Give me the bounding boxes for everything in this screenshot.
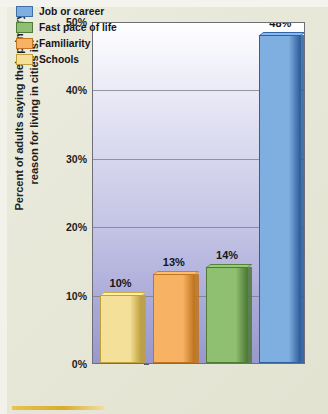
bar-side-face xyxy=(301,35,305,363)
legend-swatch-icon xyxy=(16,6,33,17)
bar-fast-pace-of-life[interactable] xyxy=(206,267,248,363)
bar-familiarity[interactable] xyxy=(153,274,195,363)
legend-item-schools[interactable]: Schools xyxy=(16,52,117,67)
y-axis-tick-label: 30% xyxy=(66,153,87,165)
decorative-rule xyxy=(12,406,105,410)
y-axis-tick-labels: 0%10%20%30%40%50% xyxy=(55,22,89,364)
legend-item-label: Familiarity xyxy=(39,38,91,49)
figure-container: Percent of adults saying their primary r… xyxy=(0,0,328,414)
bar-side-face xyxy=(142,295,146,363)
bar-side-face xyxy=(248,267,252,363)
bar-front-face xyxy=(100,295,142,363)
bar-front-face xyxy=(153,274,195,363)
bar-value-label: 14% xyxy=(202,249,252,261)
legend-swatch-icon xyxy=(16,22,33,33)
legend-item-label: Fast pace of life xyxy=(39,22,117,33)
legend-swatch-icon xyxy=(16,54,33,65)
legend-item-label: Schools xyxy=(39,54,79,65)
y-axis-tick-mark xyxy=(144,364,149,365)
y-axis-tick-label: 10% xyxy=(66,290,87,302)
legend-item-job-or-career[interactable]: Job or career xyxy=(16,4,117,19)
bar-value-label: 10% xyxy=(96,277,146,289)
bar-side-face xyxy=(195,274,199,363)
bar-front-face xyxy=(259,35,301,363)
y-axis-tick-label: 40% xyxy=(66,84,87,96)
chart-legend: Job or careerFast pace of lifeFamiliarit… xyxy=(16,4,117,67)
y-axis-tick-label: 0% xyxy=(72,358,87,370)
legend-item-label: Job or career xyxy=(39,6,104,17)
bar-job-or-career[interactable] xyxy=(259,35,301,363)
bar-value-label: 48% xyxy=(255,22,305,29)
y-axis-tick-label: 20% xyxy=(66,221,87,233)
legend-item-familiarity[interactable]: Familiarity xyxy=(16,36,117,51)
legend-item-fast-pace-of-life[interactable]: Fast pace of life xyxy=(16,20,117,35)
bar-front-face xyxy=(206,267,248,363)
legend-swatch-icon xyxy=(16,38,33,49)
bar-schools[interactable] xyxy=(100,295,142,363)
paper-edge-left xyxy=(0,0,7,414)
plot-area: 10%13%14%48% xyxy=(92,22,305,364)
bar-value-label: 13% xyxy=(149,256,199,268)
